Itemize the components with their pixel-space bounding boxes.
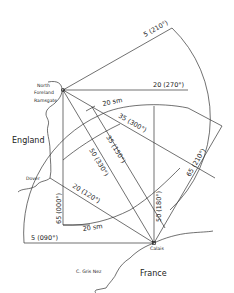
label-35-300: 35 (300°) xyxy=(117,112,148,134)
bearing-line-20-120 xyxy=(50,178,154,243)
label-dover: Dover xyxy=(26,176,40,181)
arc-65-210 xyxy=(188,108,222,126)
label-5-210: 5 (210°) xyxy=(142,19,169,39)
label-20-120: 20 (120°) xyxy=(71,182,102,205)
label-ramsgate: Ramsgate xyxy=(34,98,57,103)
label-65-000: 65 (000°) xyxy=(55,193,63,224)
label-france: France xyxy=(140,269,167,278)
label-20sm-top: 20 sm xyxy=(102,96,123,108)
bearing-line-50-330 xyxy=(63,90,154,243)
bearing-line-65-210 xyxy=(154,126,222,243)
label-foreland: Foreland xyxy=(34,90,54,95)
label-calais: Calais xyxy=(150,246,164,251)
label-england: England xyxy=(12,136,44,145)
label-5-090: 5 (090°) xyxy=(31,234,58,242)
label-20-270: 20 (270°) xyxy=(153,81,184,89)
arc-north-foreland-outer xyxy=(170,28,210,210)
label-gris-nez: C. Gris Nez xyxy=(76,269,102,274)
label-50-330: 50 (330°) xyxy=(87,147,110,178)
label-50-180: 50 (180°) xyxy=(155,191,163,222)
label-20sm-bottom: 20 sm xyxy=(82,222,103,233)
navigation-bearing-diagram: North Foreland Ramsgate England Dover Ca… xyxy=(0,0,234,293)
label-north: North xyxy=(37,83,50,88)
label-35-150: 35 (150°) xyxy=(104,134,127,165)
